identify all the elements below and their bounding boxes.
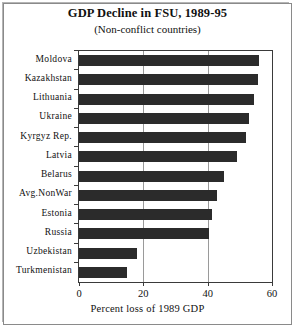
x-axis-tick-label: 60 [252, 288, 292, 299]
x-axis-tick [208, 282, 209, 286]
x-axis-tick-label: 0 [59, 288, 99, 299]
y-axis-tick [74, 204, 78, 205]
chart-figure: GDP Decline in FSU, 1989-95 (Non-conflic… [0, 0, 295, 331]
y-axis-tick [74, 223, 78, 224]
y-axis-tick [74, 127, 78, 128]
x-axis-tick [143, 282, 144, 286]
axis-ticks: 0204060 [0, 0, 295, 331]
y-axis-tick [74, 108, 78, 109]
x-axis-tick-label: 40 [188, 288, 228, 299]
y-axis-tick [74, 69, 78, 70]
y-axis-tick [74, 146, 78, 147]
x-axis-tick [272, 282, 273, 286]
x-axis-tick-label: 20 [123, 288, 163, 299]
x-axis-title: Percent loss of 1989 GDP [0, 303, 295, 314]
y-axis-tick [74, 243, 78, 244]
y-axis-tick [74, 89, 78, 90]
y-axis-tick [74, 166, 78, 167]
x-axis-tick [79, 282, 80, 286]
y-axis-tick [74, 50, 78, 51]
y-axis-tick [74, 185, 78, 186]
y-axis-tick [74, 262, 78, 263]
